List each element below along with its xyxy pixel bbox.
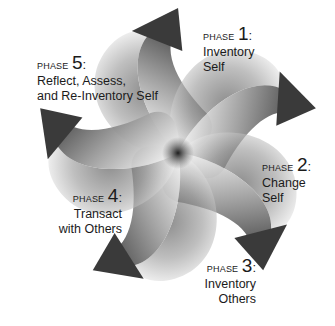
phase-4-prefix: PHASE xyxy=(73,194,105,204)
phase-5-line-2: and Re-Inventory Self xyxy=(37,89,158,103)
center-hub xyxy=(162,137,194,169)
phase-1-label: PHASE 1: Inventory Self xyxy=(203,26,254,75)
phase-5-number: 5 xyxy=(72,52,83,73)
phase-3-label: PHASE 3: Inventory Others xyxy=(170,258,256,307)
phase-2-line-2: Self xyxy=(262,191,284,205)
phase-4-number: 4 xyxy=(108,185,119,206)
phase-1-line-1: Inventory xyxy=(203,45,254,59)
phase-2-prefix: PHASE xyxy=(262,163,294,173)
phase-3-line-1: Inventory xyxy=(205,277,256,291)
phase-4-line-2: with Others xyxy=(59,222,122,236)
phase-3-prefix: PHASE xyxy=(207,264,239,274)
phase-4-label: PHASE 4: Transact with Others xyxy=(52,188,122,237)
phase-5-label: PHASE 5: Reflect, Assess, and Re-Invento… xyxy=(37,55,207,104)
phase-1-number: 1 xyxy=(238,23,249,44)
phase-3-number: 3 xyxy=(242,255,253,276)
phase-4-line-1: Transact xyxy=(74,207,122,221)
phase-5-line-1: Reflect, Assess, xyxy=(37,74,126,88)
phase-5-prefix: PHASE xyxy=(37,61,69,71)
phase-3-line-2: Others xyxy=(218,292,256,306)
phase-1-prefix: PHASE xyxy=(203,32,235,42)
phase-2-number: 2 xyxy=(297,154,308,175)
phase-2-label: PHASE 2: Change Self xyxy=(262,157,311,206)
phase-2-line-1: Change xyxy=(262,176,306,190)
